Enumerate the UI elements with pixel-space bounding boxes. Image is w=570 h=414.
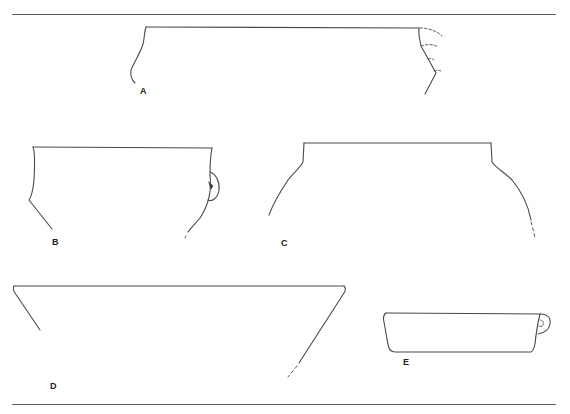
label-b: B bbox=[52, 237, 59, 247]
vessel-a-profile bbox=[131, 27, 442, 94]
figure-caption bbox=[12, 408, 312, 414]
label-c: C bbox=[281, 238, 288, 248]
label-d: D bbox=[50, 381, 57, 391]
vessel-e-profile bbox=[383, 313, 550, 352]
vessel-c-profile bbox=[269, 143, 535, 237]
label-a: A bbox=[140, 86, 147, 96]
label-e: E bbox=[403, 357, 409, 367]
bottom-rule bbox=[12, 404, 556, 405]
vessel-d-profile bbox=[13, 286, 345, 377]
vessel-profiles bbox=[0, 0, 570, 414]
vessel-b-profile bbox=[29, 147, 219, 238]
pottery-figure: A B C D E bbox=[0, 0, 570, 414]
